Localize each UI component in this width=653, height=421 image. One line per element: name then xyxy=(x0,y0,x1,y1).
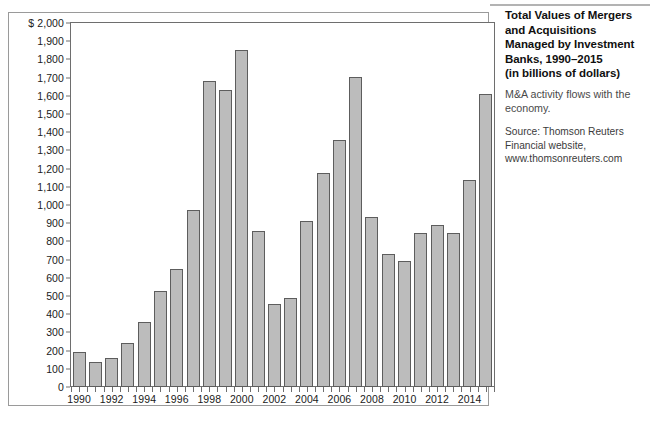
y-axis-tick-label: 800 xyxy=(46,235,64,247)
bar-2003 xyxy=(284,298,297,387)
chart-source-line: www.thomsonreuters.com xyxy=(505,152,645,165)
x-axis-tick-mark xyxy=(356,387,357,392)
x-axis-tick-label: 2010 xyxy=(393,393,417,405)
x-axis-tick-label: 1990 xyxy=(67,393,91,405)
x-axis-tick-mark xyxy=(461,387,462,392)
y-axis-tick-label: $ 2,000 xyxy=(28,17,64,29)
bar-1999 xyxy=(219,90,232,387)
x-axis-tick-label: 2012 xyxy=(425,393,449,405)
x-axis-labels: 1990199219941996199820002002200420062008… xyxy=(70,393,495,409)
x-axis-tick-mark xyxy=(429,387,430,392)
bar-2002 xyxy=(268,304,281,387)
bar-1996 xyxy=(170,269,183,387)
x-axis-tick-mark xyxy=(380,387,381,392)
x-axis-tick-mark xyxy=(291,387,292,392)
x-axis-tick-mark xyxy=(413,387,414,392)
chart-source: Source: Thomson ReutersFinancial website… xyxy=(505,125,645,165)
x-axis-tick-mark xyxy=(128,387,129,392)
x-axis-tick-mark xyxy=(250,387,251,392)
y-axis-tick-label: 1,600 xyxy=(37,90,64,102)
y-axis-tick-label: 1,400 xyxy=(37,126,64,138)
chart-title-line: and Acquisitions xyxy=(505,23,645,38)
x-axis-tick-mark xyxy=(160,387,161,392)
x-axis-tick-mark xyxy=(193,387,194,392)
y-axis-tick-label: 1,700 xyxy=(37,72,64,84)
chart-source-line: Source: Thomson Reuters xyxy=(505,125,645,138)
bar-1990 xyxy=(73,352,86,387)
x-axis-tick-mark xyxy=(242,387,243,392)
y-axis-tick-label: 200 xyxy=(46,345,64,357)
x-axis-tick-mark xyxy=(209,387,210,392)
x-axis-tick-mark xyxy=(445,387,446,392)
header-rule xyxy=(490,4,650,6)
y-axis-tick-label: 1,300 xyxy=(37,144,64,156)
x-axis-tick-mark xyxy=(388,387,389,392)
y-axis-tick-label: 1,200 xyxy=(37,163,64,175)
bar-1995 xyxy=(154,291,167,387)
y-axis-tick-label: 1,800 xyxy=(37,53,64,65)
x-axis-tick-mark xyxy=(274,387,275,392)
bar-2006 xyxy=(333,140,346,387)
y-axis-tick-label: 0 xyxy=(58,381,64,393)
chart-title-line: Banks, 1990–2015 xyxy=(505,52,645,67)
x-axis-tick-label: 2014 xyxy=(458,393,482,405)
bar-1993 xyxy=(121,343,134,387)
x-axis-tick-label: 2000 xyxy=(230,393,254,405)
bar-2010 xyxy=(398,261,411,387)
x-axis-tick-mark xyxy=(201,387,202,392)
x-axis-tick-mark xyxy=(258,387,259,392)
x-axis-tick-mark xyxy=(283,387,284,392)
x-axis-tick-mark xyxy=(177,387,178,392)
y-axis-tick-label: 100 xyxy=(46,363,64,375)
x-axis-tick-label: 2002 xyxy=(262,393,286,405)
x-axis-tick-mark xyxy=(71,387,72,392)
x-axis-tick-mark xyxy=(120,387,121,392)
y-axis-labels: $ 2,0001,9001,8001,7001,6001,5001,4001,3… xyxy=(8,22,68,387)
chart-title: Total Values of Mergersand AcquisitionsM… xyxy=(505,8,645,81)
y-axis-tick-label: 900 xyxy=(46,217,64,229)
y-axis-tick-label: 700 xyxy=(46,254,64,266)
y-axis-tick-label: 300 xyxy=(46,326,64,338)
bar-2008 xyxy=(365,217,378,387)
x-axis-tick-mark xyxy=(478,387,479,392)
x-axis-tick-mark xyxy=(437,387,438,392)
bar-2004 xyxy=(300,221,313,387)
x-axis-tick-mark xyxy=(396,387,397,392)
x-axis-tick-mark xyxy=(339,387,340,392)
bar-1997 xyxy=(187,210,200,387)
x-axis-tick-label: 1992 xyxy=(100,393,124,405)
x-axis-tick-mark xyxy=(453,387,454,392)
bar-1994 xyxy=(138,322,151,387)
x-axis-tick-mark xyxy=(152,387,153,392)
x-axis-tick-label: 2008 xyxy=(360,393,384,405)
x-axis-tick-mark xyxy=(323,387,324,392)
y-axis-tick-label: 1,900 xyxy=(37,35,64,47)
bar-series xyxy=(71,23,494,387)
x-axis-tick-mark xyxy=(364,387,365,392)
y-axis-tick-label: 1,100 xyxy=(37,181,64,193)
bar-2007 xyxy=(349,77,362,387)
x-axis-tick-mark xyxy=(470,387,471,392)
chart-source-line: Financial website, xyxy=(505,139,645,152)
bar-2009 xyxy=(382,254,395,387)
x-axis-tick-mark xyxy=(104,387,105,392)
bar-chart: $ 2,0001,9001,8001,7001,6001,5001,4001,3… xyxy=(8,12,489,406)
caption-column: Total Values of Mergersand AcquisitionsM… xyxy=(505,8,645,166)
y-axis-tick-label: 400 xyxy=(46,308,64,320)
bar-2015 xyxy=(479,94,492,387)
x-axis-tick-mark xyxy=(307,387,308,392)
x-axis-tick-label: 2004 xyxy=(295,393,319,405)
bar-2001 xyxy=(252,231,265,387)
x-axis-tick-mark xyxy=(315,387,316,392)
x-axis-tick-mark xyxy=(494,387,495,392)
x-axis-tick-mark xyxy=(331,387,332,392)
x-axis-tick-mark xyxy=(405,387,406,392)
x-axis-tick-label: 1996 xyxy=(165,393,189,405)
x-axis-tick-mark xyxy=(95,387,96,392)
chart-title-line: Managed by Investment xyxy=(505,37,645,52)
bar-2000 xyxy=(235,50,248,387)
chart-title-line: Total Values of Mergers xyxy=(505,8,645,23)
y-axis-tick-label: 500 xyxy=(46,290,64,302)
x-axis-tick-mark xyxy=(421,387,422,392)
bar-1991 xyxy=(89,362,102,387)
